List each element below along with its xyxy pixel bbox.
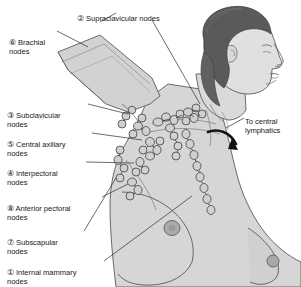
label-anterior-pectoral-nodes: ⑧ Anterior pectoral nodes: [7, 194, 70, 223]
label-supraclavicular-nodes: ② Supraclavicular nodes: [77, 4, 160, 23]
label-number-anterior-pectoral: ⑧: [7, 204, 16, 213]
label-central-axillary-nodes: ⑤ Central axillary nodes: [7, 130, 65, 159]
label-subclavicular-nodes: ③ Subclavicular nodes: [7, 101, 61, 130]
label-to-central-lymphatics: To central lymphatics: [245, 107, 280, 136]
leader-brachial: [57, 31, 88, 47]
label-number-subclavicular: ③: [7, 111, 16, 120]
label-text-to-central-lymphatics: To central lymphatics: [245, 117, 280, 136]
label-brachial-nodes: ⑥ Brachial nodes: [9, 28, 45, 57]
label-number-interpectoral: ④: [7, 169, 16, 178]
label-number-central-axillary: ⑤: [7, 140, 16, 149]
label-text-supraclavicular: Supraclavicular nodes: [86, 14, 160, 23]
label-interpectoral-nodes: ④ Interpectoral nodes: [7, 159, 58, 188]
label-text-central-axillary: Central axillary nodes: [7, 140, 65, 159]
label-number-supraclavicular: ②: [77, 14, 86, 23]
label-number-subscapular: ⑦: [7, 238, 16, 247]
label-number-internal-mammary: ①: [7, 268, 16, 277]
label-text-anterior-pectoral: Anterior pectoral nodes: [7, 204, 70, 223]
label-text-internal-mammary: Internal mammary nodes: [7, 268, 76, 287]
label-number-brachial: ⑥: [9, 38, 18, 47]
label-subscapular-nodes: ⑦ Subscapular nodes: [7, 228, 58, 257]
label-internal-mammary-nodes: ① Internal mammary nodes: [7, 258, 76, 287]
label-text-subclavicular: Subclavicular nodes: [7, 111, 61, 130]
lymph-node-diagram: ② Supraclavicular nodes ⑥ Brachial nodes…: [0, 0, 301, 287]
nipple-far: [267, 255, 279, 267]
